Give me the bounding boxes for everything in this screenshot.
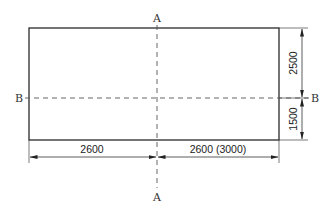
dimension-text-2600-right: 2600 (3000): [190, 143, 247, 155]
section-label-b-left: B: [15, 92, 23, 105]
dimension-text-1500: 1500: [287, 107, 299, 131]
plan-drawing: A A B B 2500 1500 2600 2600 (3000): [0, 0, 333, 215]
section-label-a-bottom: A: [152, 191, 162, 204]
section-label-b-right: B: [311, 92, 319, 105]
dimension-text-2600-left: 2600: [80, 143, 104, 155]
dimension-text-2500: 2500: [287, 51, 299, 75]
section-label-a-top: A: [152, 12, 162, 25]
floor-outline: [29, 28, 279, 140]
